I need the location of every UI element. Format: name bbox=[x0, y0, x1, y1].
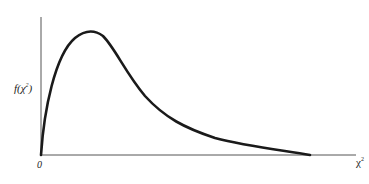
x-axis-label: χ2 bbox=[356, 156, 364, 168]
y-axis-label: f(χ2) bbox=[14, 82, 32, 94]
density-curve bbox=[41, 32, 310, 155]
chi-square-chart bbox=[0, 0, 369, 184]
origin-label: 0 bbox=[37, 159, 42, 170]
